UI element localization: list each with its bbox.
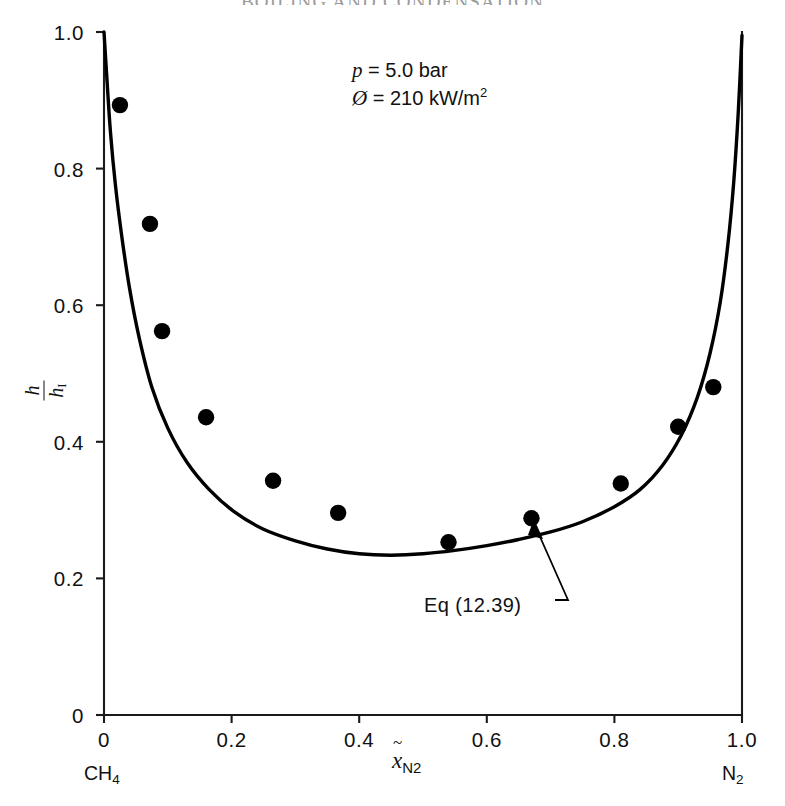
- right-endpoint-label: N2: [722, 762, 744, 785]
- x-tick-label: 0.6: [457, 728, 517, 752]
- data-point: [523, 510, 539, 526]
- x-axis-symbol: x: [392, 748, 402, 774]
- x-tick-label: 0.2: [202, 728, 262, 752]
- left-endpoint-text: CH: [84, 762, 112, 784]
- axis-frame: [104, 32, 742, 715]
- y-tick-label: 1.0: [22, 21, 84, 45]
- x-ticks: [104, 715, 742, 723]
- x-axis-subscript: N2: [402, 759, 421, 776]
- y-ticks: [96, 32, 104, 715]
- y-axis-title: hhI: [22, 361, 67, 421]
- data-point: [142, 216, 158, 232]
- y-tick-label: 0: [22, 704, 84, 728]
- data-point: [265, 473, 281, 489]
- data-point: [440, 534, 456, 550]
- figure-page: BOILING AND CONDENSATION: [0, 0, 785, 806]
- equation-annotation: Eq (12.39): [424, 594, 521, 617]
- data-point: [112, 97, 128, 113]
- plot-canvas: [0, 0, 785, 806]
- data-point: [613, 475, 629, 491]
- y-axis-numerator: h: [22, 380, 44, 400]
- y-axis-denominator: hI: [44, 380, 67, 400]
- pressure-value: = 5.0 bar: [368, 59, 448, 81]
- left-endpoint-label: CH4: [84, 762, 120, 785]
- data-point: [670, 419, 686, 435]
- data-point: [154, 323, 170, 339]
- data-point: [705, 379, 721, 395]
- right-endpoint-sub: 2: [736, 772, 744, 787]
- heatflux-exponent: 2: [480, 85, 487, 100]
- heatflux-symbol: Ø: [352, 86, 367, 110]
- left-endpoint-sub: 4: [112, 772, 120, 787]
- y-tick-label: 0.4: [22, 431, 84, 455]
- data-point: [198, 409, 214, 425]
- x-tick-label: 0.8: [584, 728, 644, 752]
- pressure-symbol: p: [352, 58, 363, 82]
- x-axis-subscript-number: 2: [413, 759, 421, 776]
- x-tick-label: 0: [74, 728, 134, 752]
- x-tick-label: 0.4: [329, 728, 389, 752]
- chart-figure: 1.0 0.8 0.6 0.4 0.2 0 0 0.2 0.4 0.6 0.8 …: [0, 0, 785, 806]
- y-axis-denominator-sub: I: [54, 383, 69, 387]
- pressure-condition: p = 5.0 bar: [352, 56, 487, 84]
- conditions-annotation: p = 5.0 bar Ø = 210 kW/m2: [352, 56, 487, 113]
- y-tick-label: 0.8: [22, 158, 84, 182]
- x-axis-title: xN2: [392, 748, 421, 774]
- heatflux-condition: Ø = 210 kW/m2: [352, 84, 487, 112]
- heatflux-value: = 210 kW/m: [373, 87, 480, 109]
- y-axis-denominator-text: h: [45, 388, 67, 398]
- data-point: [330, 505, 346, 521]
- x-axis-subscript-element: N: [402, 759, 413, 776]
- right-endpoint-text: N: [722, 762, 736, 784]
- x-tick-label: 1.0: [712, 728, 772, 752]
- y-tick-label: 0.6: [22, 294, 84, 318]
- y-tick-label: 0.2: [22, 567, 84, 591]
- y-axis-fraction: hhI: [22, 380, 67, 400]
